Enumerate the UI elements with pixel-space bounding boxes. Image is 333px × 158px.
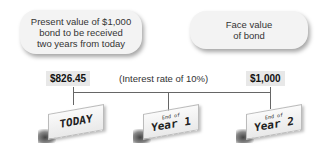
callout-line: Face value <box>226 19 272 30</box>
sign-end-of-year-1: End of Year 1 <box>133 103 201 139</box>
timeline-line <box>73 92 270 93</box>
present-value-callout: Present value of $1,000 bond to be recei… <box>20 10 142 54</box>
face-value-callout: Face value of bond <box>190 11 308 49</box>
sign-today: TODAY <box>38 103 106 139</box>
face-value-label: $1,000 <box>246 71 285 86</box>
sign-label: TODAY <box>59 113 92 131</box>
sign-label: Year 1 <box>151 115 191 134</box>
present-value-label: $826.45 <box>46 71 90 86</box>
interest-rate-note: (Interest rate of 10%) <box>119 73 208 84</box>
sign-label: Year 2 <box>254 115 294 134</box>
callout-line: of bond <box>226 30 272 41</box>
callout-line: two years from today <box>31 38 131 49</box>
sign-end-of-year-2: End of Year 2 <box>236 103 304 139</box>
callout-line: bond to be received <box>31 27 131 38</box>
callout-line: Present value of $1,000 <box>31 16 131 27</box>
